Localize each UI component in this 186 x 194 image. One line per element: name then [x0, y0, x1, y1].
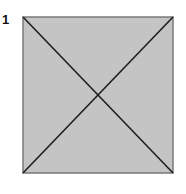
folding-diagram	[0, 0, 186, 194]
